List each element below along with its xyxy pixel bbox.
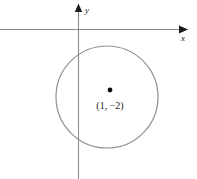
center-point-dot	[108, 88, 113, 93]
x-axis-label: x	[180, 33, 185, 43]
circle-coordinate-diagram: x y (1, −2)	[0, 0, 197, 179]
circle-shape	[56, 46, 158, 148]
diagram-canvas: x y (1, −2)	[0, 0, 197, 179]
y-axis-label: y	[84, 5, 89, 15]
y-axis-arrow-icon	[75, 4, 82, 13]
center-point-label: (1, −2)	[96, 100, 123, 112]
